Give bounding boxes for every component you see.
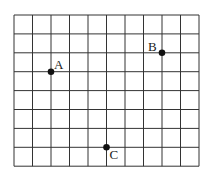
point-label: A xyxy=(54,57,64,72)
point-a: A xyxy=(48,57,64,75)
grid-lines xyxy=(14,15,199,166)
point-label: C xyxy=(110,147,119,162)
coordinate-grid-diagram: ABC xyxy=(0,0,208,178)
point-c: C xyxy=(103,144,118,162)
point-b: B xyxy=(148,39,165,56)
point-dot xyxy=(159,50,166,57)
point-label: B xyxy=(148,39,157,54)
